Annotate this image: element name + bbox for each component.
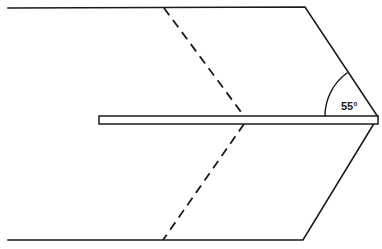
shear-plane-dashed-lower bbox=[163, 124, 244, 240]
angle-value-label: 55° bbox=[341, 101, 358, 112]
tool-blade-bar bbox=[99, 116, 378, 124]
diagram-root: 55° bbox=[0, 0, 382, 249]
angle-diagram-canvas bbox=[0, 0, 382, 249]
shear-plane-dashed-upper bbox=[164, 8, 244, 116]
